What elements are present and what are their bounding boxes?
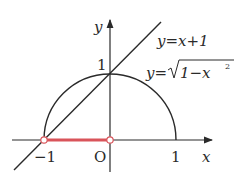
tick-label-x-pos1: 1	[171, 148, 181, 166]
y-axis-label: y	[93, 18, 103, 36]
semicircle-equation-label: y= 1−x 2	[145, 60, 234, 82]
diagram-canvas: y x O −1 1 1 y=x+1 y= 1−x 2	[0, 0, 240, 179]
open-point-origin	[107, 137, 113, 143]
open-point-neg1	[41, 137, 47, 143]
svg-text:2: 2	[225, 62, 230, 71]
tick-label-y-pos1: 1	[97, 56, 107, 74]
origin-label: O	[94, 148, 106, 166]
tick-label-x-neg1: −1	[34, 148, 56, 166]
x-axis-label: x	[202, 148, 211, 166]
line-equation-label: y=x+1	[156, 32, 209, 50]
svg-text:1−x: 1−x	[180, 64, 211, 82]
svg-text:y=: y=	[145, 64, 167, 82]
